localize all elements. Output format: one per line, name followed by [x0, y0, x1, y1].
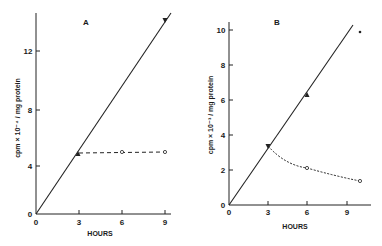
panel-a-ytick-12: 12: [24, 47, 33, 56]
panel-a-xtick-6: 6: [120, 218, 125, 227]
panel-b-ytick-8: 8: [221, 61, 226, 70]
panel-a-x-title: HOURS: [87, 230, 113, 237]
panel-b-xtick-3: 3: [266, 208, 271, 217]
panel-b-y-ticks: [229, 30, 233, 170]
panel-a-ytick-8: 8: [28, 106, 33, 115]
panel-a-solid-line: [36, 13, 171, 214]
panel-b-marker-circle: [358, 179, 361, 182]
panel-a-xtick-3: 3: [77, 218, 82, 227]
panel-a-x-ticks: [79, 210, 165, 214]
panel-b-ytick-2: 2: [221, 166, 226, 175]
panel-a-xtick-0: 0: [34, 218, 39, 227]
panel-b-label: B: [274, 18, 280, 27]
panel-a-label: A: [83, 18, 89, 27]
figure: 0 4 8 12 0 3 6 9 HOURS cpm × 10⁻⁴ / mg p…: [0, 0, 382, 246]
panel-a-ytick-0: 0: [28, 210, 33, 219]
panel-a-ytick-4: 4: [28, 162, 33, 171]
panel-a-y-ticks: [36, 51, 40, 166]
panel-b-solid-line: [229, 25, 353, 205]
panel-b-ytick-4: 4: [221, 131, 226, 140]
panel-a-marker-triangle: [163, 18, 168, 23]
panel-b-xtick-0: 0: [227, 208, 232, 217]
panel-b-ytick-10: 10: [217, 26, 226, 35]
panel-b-dotted-curve: [268, 146, 360, 181]
panel-b-ytick-6: 6: [221, 96, 226, 105]
panel-a-marker-circle: [120, 150, 123, 153]
panel-a-marker-circle: [163, 150, 166, 153]
panel-b-x-ticks: [268, 201, 347, 205]
panel-b-marker-point: [359, 31, 362, 34]
panel-b-x-title: HOURS: [282, 223, 308, 230]
panel-b: 0 2 4 6 8 10 0 3 6 9 HOURS cpm × 10⁻³ / …: [207, 18, 371, 230]
panel-b-xtick-9: 9: [345, 208, 350, 217]
panel-b-marker-circle: [305, 166, 308, 169]
panel-a-xtick-9: 9: [163, 218, 168, 227]
panel-b-ytick-0: 0: [221, 201, 226, 210]
panel-a: 0 4 8 12 0 3 6 9 HOURS cpm × 10⁻⁴ / mg p…: [14, 13, 171, 237]
panel-b-xtick-6: 6: [305, 208, 310, 217]
panel-b-y-title: cpm × 10⁻³ / mg protein: [207, 76, 215, 155]
panel-a-y-title: cpm × 10⁻⁴ / mg protein: [14, 78, 22, 158]
